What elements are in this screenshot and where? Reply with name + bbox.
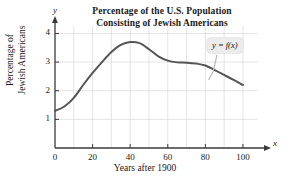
x-axis-title: Years after 1900: [85, 163, 205, 173]
x-tick-label: 20: [83, 152, 103, 162]
x-tick-label: 60: [158, 152, 178, 162]
x-axis-arrow-icon: [264, 145, 271, 151]
y-axis-title-line-2: Jewish Americans: [17, 12, 29, 108]
chart-title: Percentage of the U.S. Population Consis…: [62, 6, 262, 29]
x-tick-label: 40: [120, 152, 140, 162]
y-axis-title-line-1: Percentage of: [5, 12, 17, 108]
chart-title-line-1: Percentage of the U.S. Population: [62, 6, 262, 18]
chart-figure: Percentage of the U.S. Population Consis…: [0, 0, 290, 184]
y-axis-variable-label: y: [53, 5, 57, 15]
y-axis-arrow-icon: [52, 16, 58, 23]
x-axis-variable-label: x: [273, 138, 277, 148]
y-tick-label: 4: [36, 27, 50, 37]
y-tick-label: 1: [36, 113, 50, 123]
curve-equation-callout: y = f(x): [207, 38, 243, 53]
x-tick-label: 80: [195, 152, 215, 162]
chart-title-line-2: Consisting of Jewish Americans: [62, 18, 262, 30]
y-tick-label: 3: [36, 56, 50, 66]
y-tick-label: 2: [36, 85, 50, 95]
x-tick-label: 0: [45, 152, 65, 162]
x-tick-label: 100: [233, 152, 253, 162]
y-axis-title: Percentage of Jewish Americans: [5, 12, 29, 108]
